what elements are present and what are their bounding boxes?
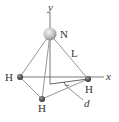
y-axis-label: y <box>47 1 53 13</box>
right-angle-marker <box>64 82 69 86</box>
hydrogen-label-bottom: H <box>38 102 46 114</box>
x-axis-label: x <box>105 70 111 82</box>
bond-length-label: L <box>71 47 78 59</box>
distance-leader-line <box>66 86 83 100</box>
hydrogen-atom-left <box>17 74 23 80</box>
nitrogen-atom <box>44 28 57 41</box>
nitrogen-label: N <box>60 28 68 40</box>
hydrogen-atom-right <box>85 76 91 82</box>
ammonia-molecule-diagram: y x d L N H H H <box>0 0 119 122</box>
distance-label: d <box>84 97 90 109</box>
hydrogen-label-left: H <box>5 71 13 83</box>
hydrogen-label-right: H <box>85 83 93 95</box>
base-edge-left-bottom <box>20 77 42 99</box>
bond-n-h-right <box>50 34 88 79</box>
